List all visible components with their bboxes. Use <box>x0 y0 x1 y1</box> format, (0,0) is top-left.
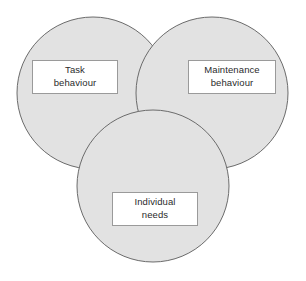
task-behaviour-label-line2: behaviour <box>54 77 97 90</box>
maintenance-behaviour-label-line2: behaviour <box>211 77 254 90</box>
task-behaviour-label-line1: Task <box>65 64 85 77</box>
individual-needs-label-line2: needs <box>142 209 168 222</box>
maintenance-behaviour-label-box: Maintenance behaviour <box>188 60 276 94</box>
individual-needs-label-line1: Individual <box>134 196 175 209</box>
task-behaviour-label-box: Task behaviour <box>32 60 118 94</box>
maintenance-behaviour-label-line1: Maintenance <box>204 64 260 77</box>
individual-needs-circle <box>77 110 229 262</box>
venn-circles-group <box>0 0 306 281</box>
venn-diagram: Task behaviour Maintenance behaviour Ind… <box>0 0 306 281</box>
individual-needs-label-box: Individual needs <box>112 192 198 226</box>
